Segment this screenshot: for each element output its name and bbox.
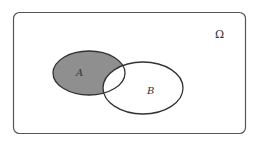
universe-frame	[14, 13, 246, 134]
universe-omega-label: Ω	[215, 28, 224, 41]
set-b-label: B	[146, 85, 154, 96]
set-a-label: A	[75, 67, 83, 78]
venn-diagram: A B Ω	[0, 0, 258, 141]
